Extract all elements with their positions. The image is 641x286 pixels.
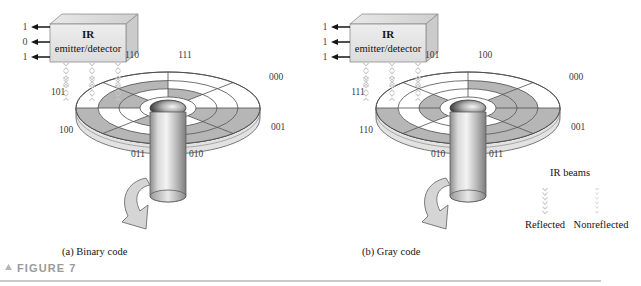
output-bit-1: 0 [23,36,28,47]
output-bit-2: 1 [23,51,28,62]
gray-label-101: 101 [425,50,440,60]
rotation-arrow-icon [122,178,150,229]
panel-binary: IR emitter/detector 1 0 1 [23,14,286,258]
emitter-title: IR [382,28,395,40]
binary-label-010: 010 [189,149,204,159]
legend-title: IR beams [550,167,590,178]
ir-beam-chevron-icon [389,63,395,87]
binary-label-000: 000 [269,72,284,82]
emitter-box-top [350,14,438,24]
output-bit-1: 1 [323,36,328,47]
binary-shaft [150,112,186,202]
arrow-left-icon [31,54,50,60]
figure-number-label: FIGURE 7 [17,262,77,274]
gray-rotation-arrow [422,178,450,229]
shaft-bottom-cap [150,190,186,202]
binary-label-001: 001 [271,122,286,132]
binary-label-111: 111 [178,50,192,60]
figure-footer: FIGURE 7 [0,262,601,281]
gray-label-011: 011 [489,149,503,159]
binary-label-100: 100 [59,125,74,135]
gray-label-010: 010 [431,149,446,159]
rotating-shaft-icon [450,112,486,202]
gray-caption: (b) Gray code [362,246,421,258]
rotating-shaft-icon [150,112,186,202]
encoder-figure-svg: IR emitter/detector 1 0 1 [0,0,641,286]
triangle-up-icon [5,264,12,270]
gray-label-000: 000 [569,72,584,82]
gray-output-bits: 1 1 1 [323,21,351,62]
ir-beam-reflected-icon [542,188,548,214]
binary-label-110: 110 [125,50,139,60]
output-bit-0: 1 [323,21,328,32]
arrow-left-icon [331,24,350,30]
emitter-box-top [50,14,138,24]
gray-label-110: 110 [359,125,373,135]
ir-beams-legend: IR beams Reflected Nonreflected [525,167,629,230]
arrow-left-icon [31,24,50,30]
output-bit-0: 1 [23,21,28,32]
binary-rotation-arrow [122,178,150,229]
legend-nonreflected-label: Nonreflected [574,219,630,230]
gray-label-100: 100 [478,50,493,60]
arrow-left-icon [31,39,50,45]
binary-output-bits: 1 0 1 [23,21,51,62]
emitter-subtitle: emitter/detector [355,43,422,54]
emitter-title: IR [82,28,95,40]
ir-beam-nonreflected-icon [595,188,599,213]
binary-label-101: 101 [51,87,66,97]
ir-beam-chevron-icon [63,63,69,87]
gray-shaft [450,112,486,202]
rotation-arrow-icon [422,178,450,229]
figure-container: IR emitter/detector 1 0 1 [0,0,641,286]
output-bit-2: 1 [323,51,328,62]
emitter-subtitle: emitter/detector [55,43,122,54]
arrow-left-icon [331,39,350,45]
legend-reflected-label: Reflected [525,219,566,230]
arrow-left-icon [331,54,350,60]
shaft-bottom-cap [450,190,486,202]
binary-caption: (a) Binary code [62,246,128,258]
ir-beam-chevron-icon [89,63,95,87]
ir-beam-chevron-icon [363,63,369,87]
binary-label-011: 011 [131,149,145,159]
gray-label-111: 111 [351,87,365,97]
gray-label-001: 001 [571,122,586,132]
